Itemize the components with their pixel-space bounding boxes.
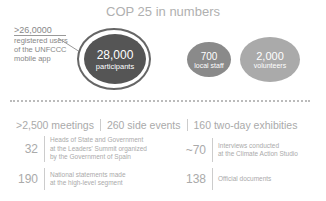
separator (187, 119, 188, 131)
annotation-line: mobile app (14, 54, 51, 63)
detail-interviews: ~70 Interviews conducted at the Climate … (180, 138, 298, 162)
local-staff-number: 700 (201, 51, 218, 62)
annotation-value: >26,0000 (14, 26, 66, 36)
participants-label: participants (96, 62, 134, 71)
separator (212, 168, 213, 190)
detail-text: Heads of State and Government (50, 136, 147, 145)
volunteers-label: volunteers (254, 62, 286, 69)
detail-number: ~70 (180, 143, 206, 157)
separator (100, 119, 101, 131)
detail-text: by the Government of Spain (50, 153, 147, 162)
separator (212, 138, 213, 162)
separator (44, 168, 45, 190)
stat-meetings: >2,500 meetings (16, 119, 94, 131)
detail-number: 32 (12, 142, 38, 156)
stat-exhibitions: 160 two-day exhibities (194, 119, 298, 131)
detail-heads-of-state: 32 Heads of State and Government at the … (12, 136, 147, 162)
detail-text: Official documents (218, 175, 271, 184)
detail-national-statements: 190 National statements made at the high… (12, 168, 126, 190)
infographic-title: COP 25 in numbers (0, 4, 326, 19)
participants-circle: 28,000 participants (84, 34, 146, 84)
detail-text: at the Leaders' Summit organized (50, 145, 147, 154)
participants-number: 28,000 (97, 48, 134, 62)
volunteers-number: 2,000 (256, 50, 284, 62)
detail-number: 138 (180, 172, 206, 186)
local-staff-label: local staff (194, 62, 223, 69)
detail-text: National statements made (50, 171, 126, 180)
detail-text: at the high-level segment (50, 179, 126, 188)
volunteers-circle: 2,000 volunteers (240, 37, 300, 82)
separator (44, 136, 45, 162)
stat-side-events: 260 side events (107, 119, 181, 131)
dotted-divider (10, 100, 310, 102)
stats-row: >2,500 meetings 260 side events 160 two-… (16, 119, 297, 131)
detail-official-documents: 138 Official documents (180, 168, 271, 190)
local-staff-circle: 700 local staff (187, 42, 231, 77)
detail-text: at the Climate Action Studio (218, 150, 298, 159)
detail-number: 190 (12, 172, 38, 186)
detail-text: Interviews conducted (218, 142, 298, 151)
